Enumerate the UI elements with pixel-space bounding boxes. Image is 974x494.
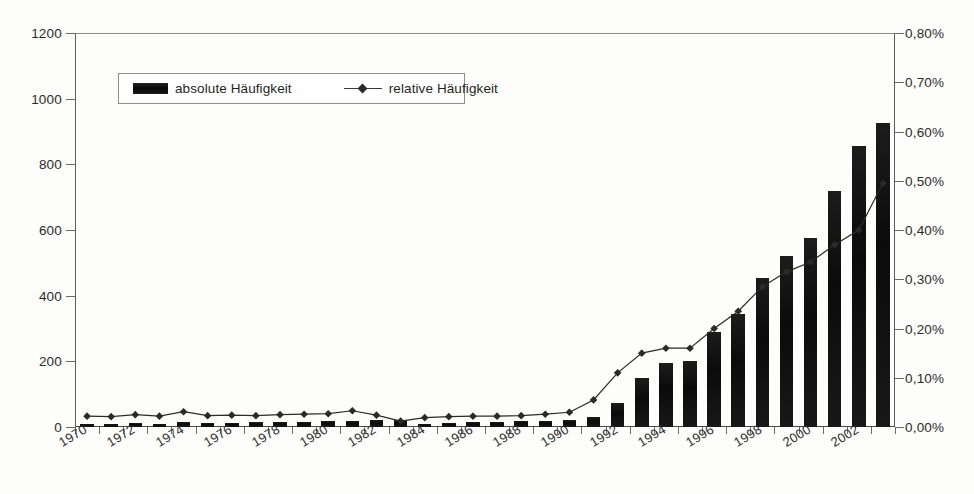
line-marker-diamond (445, 413, 453, 421)
right-axis-tick-mark (895, 427, 904, 428)
line-marker-diamond (783, 268, 791, 276)
line-marker-diamond (324, 410, 332, 418)
left-axis-tick-label: 800 (0, 157, 62, 172)
line-marker-diamond (107, 413, 115, 421)
line-marker-diamond (879, 179, 887, 187)
line-marker-diamond (373, 411, 381, 419)
left-axis-tick-label: 600 (0, 223, 62, 238)
right-axis-tick-mark (895, 132, 904, 133)
line-marker-diamond (349, 407, 357, 415)
line-marker-diamond (541, 410, 549, 418)
x-axis-tick-mark (437, 427, 438, 434)
line-marker-diamond (204, 412, 212, 420)
line-marker-diamond (83, 412, 91, 420)
legend-label-absolute: absolute Häufigkeit (175, 81, 292, 96)
right-axis-tick-label: 0,80% (905, 26, 974, 41)
x-axis-tick-mark (774, 427, 775, 434)
line-path (87, 183, 883, 421)
x-axis-tick-mark (871, 427, 872, 434)
line-marker-diamond (397, 417, 405, 425)
x-axis-tick-mark (630, 427, 631, 434)
right-axis-tick-mark (895, 82, 904, 83)
x-axis-tick-mark (823, 427, 824, 434)
x-axis-tick-mark (196, 427, 197, 434)
left-axis-tick-mark (66, 361, 75, 362)
left-axis-tick-mark (66, 33, 75, 34)
right-axis-tick-label: 0,20% (905, 321, 974, 336)
line-marker-diamond (276, 411, 284, 419)
x-axis-tick-mark (389, 427, 390, 434)
left-axis-tick-mark (66, 164, 75, 165)
right-axis-tick-label: 0,10% (905, 370, 974, 385)
line-marker-diamond (252, 412, 260, 420)
right-axis-tick-mark (895, 329, 904, 330)
x-axis-tick-mark (581, 427, 582, 434)
left-axis-tick-mark (66, 296, 75, 297)
left-axis-tick-label: 0 (0, 420, 62, 435)
line-marker-diamond (469, 412, 477, 420)
legend-label-relative: relative Häufigkeit (389, 81, 498, 96)
line-marker-diamond (131, 411, 139, 419)
right-axis-tick-mark (895, 181, 904, 182)
right-axis-tick-label: 0,60% (905, 124, 974, 139)
legend-item-relative-haeufigkeit: relative Häufigkeit (344, 81, 498, 96)
x-axis-tick-mark (340, 427, 341, 434)
x-axis-tick-mark (895, 427, 896, 434)
line-marker-diamond (421, 414, 429, 422)
line-diamond-swatch-icon (344, 83, 382, 94)
x-axis-tick-mark (147, 427, 148, 434)
line-marker-diamond (662, 344, 670, 352)
line-marker-diamond (228, 411, 236, 419)
line-marker-diamond (493, 412, 501, 420)
left-axis-tick-label: 1200 (0, 26, 62, 41)
x-axis-tick-mark (533, 427, 534, 434)
left-axis-tick-label: 1000 (0, 91, 62, 106)
right-axis-tick-label: 0,50% (905, 173, 974, 188)
right-axis-tick-label: 0,30% (905, 272, 974, 287)
legend-item-absolute-haeufigkeit: absolute Häufigkeit (133, 81, 292, 96)
right-axis-tick-label: 0,70% (905, 75, 974, 90)
x-axis-tick-mark (678, 427, 679, 434)
line-marker-diamond (831, 241, 839, 249)
line-marker-diamond (156, 412, 164, 420)
line-marker-diamond (180, 408, 188, 416)
x-axis-tick-mark (726, 427, 727, 434)
left-axis-tick-label: 200 (0, 354, 62, 369)
bar-swatch-icon (133, 83, 168, 94)
left-axis-tick-label: 400 (0, 288, 62, 303)
right-axis-tick-mark (895, 279, 904, 280)
right-axis-tick-mark (895, 378, 904, 379)
x-axis-tick-mark (244, 427, 245, 434)
line-marker-diamond (300, 410, 308, 418)
x-axis-tick-mark (485, 427, 486, 434)
line-marker-diamond (807, 258, 815, 266)
left-axis-tick-mark (66, 230, 75, 231)
chart-container: 020040060080010001200 0,00%0,10%0,20%0,3… (0, 0, 974, 494)
x-axis-tick-mark (99, 427, 100, 434)
right-axis-tick-mark (895, 33, 904, 34)
right-axis-tick-label: 0,00% (905, 420, 974, 435)
line-marker-diamond (517, 412, 525, 420)
line-marker-diamond (566, 408, 574, 416)
right-axis-tick-mark (895, 230, 904, 231)
right-axis-tick-label: 0,40% (905, 223, 974, 238)
x-axis-tick-mark (292, 427, 293, 434)
chart-legend: absolute Häufigkeit relative Häufigkeit (118, 73, 465, 104)
left-axis-tick-mark (66, 99, 75, 100)
line-marker-diamond (855, 226, 863, 234)
